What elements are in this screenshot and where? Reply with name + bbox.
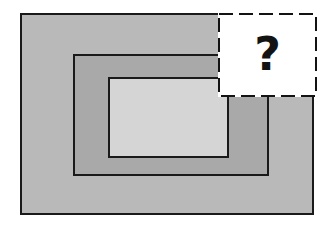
inner-rectangle — [108, 77, 229, 158]
question-mark-glyph: ? — [254, 31, 281, 77]
figure-canvas: ? — [0, 0, 333, 229]
question-occluder-box: ? — [218, 13, 317, 97]
